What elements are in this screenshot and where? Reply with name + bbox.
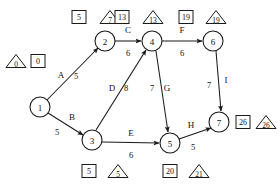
edge-G: G7 (150, 51, 171, 132)
edge-B: B5 (48, 112, 83, 137)
edge-weight-F: 6 (180, 48, 184, 58)
edge-weight-E: 6 (129, 150, 133, 160)
node-1[interactable]: 1 (30, 97, 50, 117)
earliest-time-value-4: 13 (118, 13, 126, 22)
latest-time-badge-6: 19 (206, 11, 226, 25)
edge-C: C6 (115, 25, 141, 58)
latest-time-value-4: 13 (149, 16, 157, 25)
edge-line-D (96, 50, 146, 130)
edge-weight-I: 7 (207, 80, 211, 90)
edge-line-A (47, 48, 98, 100)
node-6[interactable]: 6 (203, 31, 223, 51)
node-3[interactable]: 3 (82, 130, 102, 150)
node-label-1: 1 (38, 103, 43, 113)
node-4[interactable]: 4 (142, 31, 162, 51)
edge-label-D: D (109, 83, 116, 93)
edge-weight-A: 5 (74, 71, 78, 81)
edge-label-H: H (188, 120, 195, 130)
node-label-6: 6 (211, 37, 216, 47)
latest-time-value-6: 19 (212, 16, 220, 25)
edge-line-I (216, 51, 221, 111)
edge-label-I: I (225, 75, 228, 85)
edge-label-G: G (164, 83, 171, 93)
edge-line-B (48, 113, 83, 135)
edge-weight-H: 5 (191, 142, 195, 152)
latest-time-value-5: 21 (195, 170, 203, 179)
annotations-layer: 0057551313202119192626 (6, 11, 276, 179)
latest-time-value-3: 5 (116, 170, 120, 179)
edge-weight-G: 7 (150, 83, 154, 93)
earliest-time-value-5: 20 (166, 167, 174, 176)
earliest-time-value-1: 0 (36, 57, 40, 66)
node-7[interactable]: 7 (209, 112, 229, 132)
latest-time-value-1: 0 (14, 60, 18, 69)
edge-label-B: B (69, 112, 75, 122)
earliest-time-badge-3: 5 (82, 165, 96, 178)
latest-time-badge-5: 21 (189, 165, 209, 179)
latest-time-badge-7: 26 (256, 116, 276, 130)
node-2[interactable]: 2 (95, 31, 115, 51)
earliest-time-badge-7: 26 (236, 116, 250, 129)
node-label-5: 5 (168, 139, 173, 149)
edge-weight-D: 8 (124, 83, 128, 93)
edge-line-E (102, 142, 159, 143)
earliest-time-badge-4: 13 (115, 11, 129, 24)
earliest-time-value-7: 26 (239, 118, 247, 127)
edge-weight-B: 5 (55, 127, 59, 137)
edge-label-E: E (128, 128, 134, 138)
node-label-4: 4 (150, 37, 155, 47)
latest-time-value-2: 7 (108, 16, 112, 25)
edge-H: H5 (179, 120, 211, 152)
earliest-time-badge-5: 20 (163, 165, 177, 178)
node-label-3: 3 (90, 136, 95, 146)
earliest-time-badge-2: 5 (72, 11, 86, 24)
latest-time-badge-4: 13 (143, 11, 163, 25)
earliest-time-badge-1: 0 (31, 55, 45, 68)
edge-F: F6 (162, 25, 202, 58)
edges-layer: A5B5C6D8E6F6G7H5I7 (47, 25, 228, 160)
edge-label-F: F (179, 25, 184, 35)
node-5[interactable]: 5 (160, 133, 180, 153)
network-diagram: A5B5C6D8E6F6G7H5I7 1234567 0057551313202… (0, 0, 280, 188)
earliest-time-value-2: 5 (77, 13, 81, 22)
earliest-time-value-6: 19 (182, 13, 190, 22)
latest-time-badge-1: 0 (6, 55, 26, 69)
node-label-7: 7 (217, 118, 222, 128)
node-label-2: 2 (103, 37, 108, 47)
latest-time-value-7: 26 (262, 121, 270, 130)
edge-D: D8 (96, 50, 146, 130)
edge-label-C: C (125, 25, 131, 35)
edge-label-A: A (58, 70, 65, 80)
edge-weight-C: 6 (126, 48, 130, 58)
earliest-time-badge-6: 19 (179, 11, 193, 24)
edge-line-H (179, 128, 211, 139)
edge-E: E6 (102, 128, 159, 160)
edge-I: I7 (207, 51, 228, 111)
earliest-time-value-3: 5 (87, 167, 91, 176)
edge-A: A5 (47, 48, 98, 100)
latest-time-badge-3: 5 (108, 165, 128, 179)
